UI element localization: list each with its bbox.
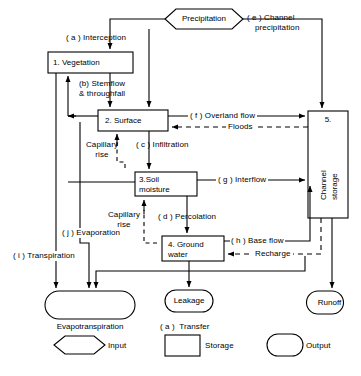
hydrological-flow-diagram: Precipitation ( a ) Interception ( e ) C… xyxy=(0,0,361,376)
label-runoff: Runoff xyxy=(307,298,352,308)
label-overland-flow: ( f ) Overland flow xyxy=(188,111,257,121)
label-channel-storage-line1: Channel xyxy=(319,170,329,200)
label-floods: Floods xyxy=(226,122,255,132)
label-capillary-rise-2-line1: Capillary xyxy=(98,210,150,220)
label-leakage: Leakage xyxy=(165,296,213,306)
label-channel-precipitation-line1: ( e ) Channel xyxy=(247,13,295,23)
label-precipitation: Precipitation xyxy=(173,14,235,24)
label-channel-precipitation-line2: precipitation xyxy=(255,23,299,33)
legend-label-output: Output xyxy=(306,341,331,351)
label-surface: 2. Surface xyxy=(105,116,141,126)
legend-label-input: Input xyxy=(108,341,126,351)
label-base-flow: ( h ) Base flow xyxy=(230,236,285,246)
label-vegetation: 1. Vegetation xyxy=(53,58,100,68)
legend-input-hexagon xyxy=(54,336,105,354)
caption-transfer-note: ( a ) Transfer xyxy=(160,322,210,332)
label-ground-water-line1: 4. Ground xyxy=(168,240,204,250)
label-transpiration: ( i ) Transpiration xyxy=(12,251,76,261)
label-ground-water-line2: water xyxy=(168,250,188,260)
label-evaporation: ( j ) Evaporation xyxy=(61,228,121,238)
label-capillary-rise-1-line1: Capillary xyxy=(76,140,128,150)
diagram-canvas xyxy=(0,0,361,376)
label-interflow: ( g ) Interflow xyxy=(216,175,268,185)
label-evapotranspiration: Evapotranspiration xyxy=(40,322,140,332)
label-throughfall-line2: & throughfall xyxy=(79,89,125,99)
label-stemflow-line1: (b) Stemflow xyxy=(79,79,125,89)
legend-output-stadium xyxy=(267,334,303,356)
label-channel-storage-line2: storage xyxy=(330,173,340,200)
node-channel-storage xyxy=(308,111,348,218)
label-soil-moisture-line2: moisture xyxy=(139,185,170,195)
legend-storage-rect xyxy=(165,335,200,356)
node-evapotranspiration xyxy=(45,291,135,319)
label-percolation: ( d ) Percolation xyxy=(158,212,216,222)
label-infiltration: ( c ) Infiltration xyxy=(136,140,188,150)
edge-base-flow xyxy=(224,186,310,241)
legend-label-storage: Storage xyxy=(205,341,234,351)
label-capillary-rise-1-line2: rise xyxy=(76,150,128,160)
label-channel-storage-number: 5. xyxy=(308,115,348,125)
label-soil-moisture-line1: 3.Soil xyxy=(139,175,159,185)
label-interception: ( a ) Interception xyxy=(66,33,126,43)
label-recharge: Recharge xyxy=(253,249,293,259)
